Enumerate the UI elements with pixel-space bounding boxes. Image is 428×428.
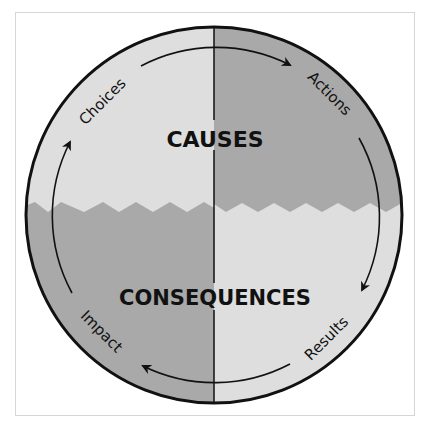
consequences-right-quadrant xyxy=(214,203,414,420)
consequences-title: CONSEQUENCES xyxy=(119,286,311,310)
quadrant-fills xyxy=(20,20,414,420)
cause-consequence-cycle-diagram: CAUSES CONSEQUENCES Choices Actions Resu… xyxy=(0,0,428,428)
causes-title: CAUSES xyxy=(166,127,263,152)
consequences-left-quadrant xyxy=(20,202,214,420)
